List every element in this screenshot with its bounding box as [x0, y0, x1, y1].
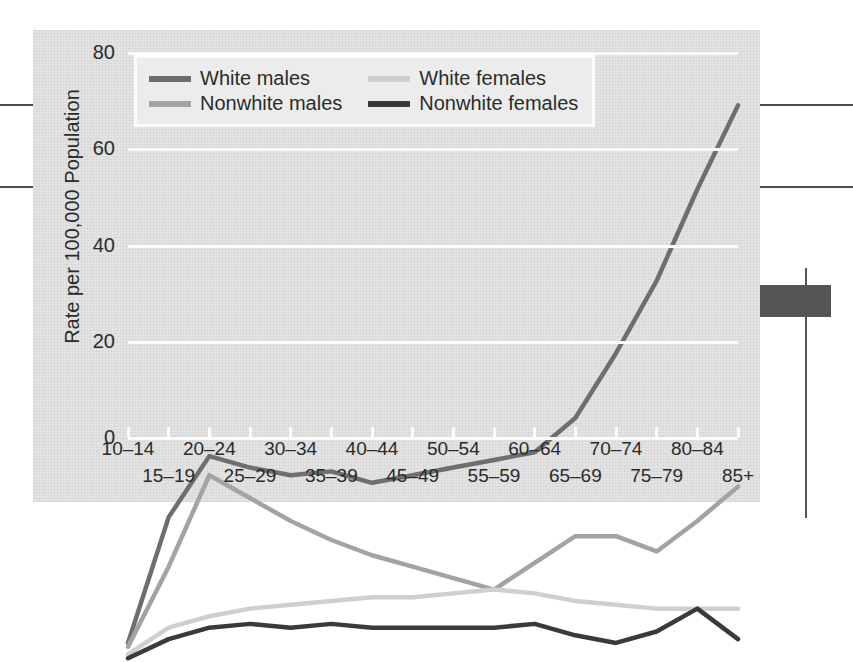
gridline: [128, 245, 738, 248]
x-axis-tick-mark: [411, 427, 414, 437]
x-axis-tick-mark: [493, 427, 496, 437]
y-axis-tick-label: 40: [93, 233, 115, 256]
x-axis-tick-mark: [615, 427, 618, 437]
page-rule-right-upper: [755, 104, 853, 106]
legend-item: Nonwhite females: [368, 92, 578, 115]
x-axis-tick-label: 45–49: [386, 465, 439, 487]
x-axis-tick-label: 20–24: [183, 438, 236, 460]
legend-label: White males: [200, 67, 310, 90]
line-chart-figure: Rate per 100,000 Population 020406080 10…: [33, 30, 760, 502]
legend-label: White females: [419, 67, 546, 90]
x-axis-tick-mark: [574, 427, 577, 437]
page-margin-vertical-rule: [805, 268, 807, 518]
x-axis-tick-mark: [737, 427, 740, 437]
series-line: [128, 590, 738, 655]
x-axis-tick-mark: [371, 427, 374, 437]
x-axis-tick-label: 35–39: [305, 465, 358, 487]
x-axis-tick-label: 55–59: [468, 465, 521, 487]
legend-item: Nonwhite males: [149, 92, 342, 115]
series-lines: [128, 52, 738, 662]
x-axis-tick-label: 80–84: [671, 438, 724, 460]
chart-legend: White malesWhite femalesNonwhite malesNo…: [134, 55, 595, 127]
y-axis-tick-label: 20: [93, 329, 115, 352]
x-axis-tick-label: 25–29: [224, 465, 277, 487]
x-axis-tick-mark: [208, 427, 211, 437]
x-axis-tick-label: 15–19: [142, 465, 195, 487]
x-axis-tick-label: 85+: [722, 465, 754, 487]
legend-swatch-icon: [149, 101, 191, 107]
x-axis-tick-label: 50–54: [427, 438, 480, 460]
y-axis-tick-labels: 020406080: [55, 30, 115, 502]
x-axis-tick-mark: [289, 427, 292, 437]
x-axis-tick-label: 65–69: [549, 465, 602, 487]
series-line: [128, 475, 738, 647]
page-margin-block: [756, 285, 831, 317]
x-axis-tick-label: 60–64: [508, 438, 561, 460]
x-axis-tick-mark: [452, 427, 455, 437]
legend-swatch-icon: [368, 101, 410, 107]
x-axis-tick-label: 10–14: [102, 438, 155, 460]
x-axis-tick-mark: [249, 427, 252, 437]
x-axis-tick-mark: [167, 427, 170, 437]
legend-swatch-icon: [149, 76, 191, 82]
series-line: [128, 105, 738, 643]
x-axis-tick-mark: [696, 427, 699, 437]
y-axis-tick-label: 60: [93, 137, 115, 160]
legend-label: Nonwhite females: [419, 92, 578, 115]
page-rule-right-lower: [755, 186, 853, 188]
x-axis-tick-label: 75–79: [630, 465, 683, 487]
x-axis-tick-labels: 10–1415–1920–2425–2930–3435–3940–4445–49…: [128, 438, 738, 498]
gridline: [128, 148, 738, 151]
x-axis-tick-mark: [533, 427, 536, 437]
x-axis-tick-mark: [127, 427, 130, 437]
legend-item: White males: [149, 67, 342, 90]
x-axis-tick-mark: [655, 427, 658, 437]
gridline: [128, 341, 738, 344]
legend-swatch-icon: [368, 76, 410, 82]
x-axis-tick-label: 30–34: [264, 438, 317, 460]
y-axis-tick-label: 80: [93, 41, 115, 64]
x-axis-tick-label: 70–74: [590, 438, 643, 460]
legend-item: White females: [368, 67, 578, 90]
legend-label: Nonwhite males: [200, 92, 342, 115]
x-axis-tick-label: 40–44: [346, 438, 399, 460]
x-axis-tick-mark: [330, 427, 333, 437]
